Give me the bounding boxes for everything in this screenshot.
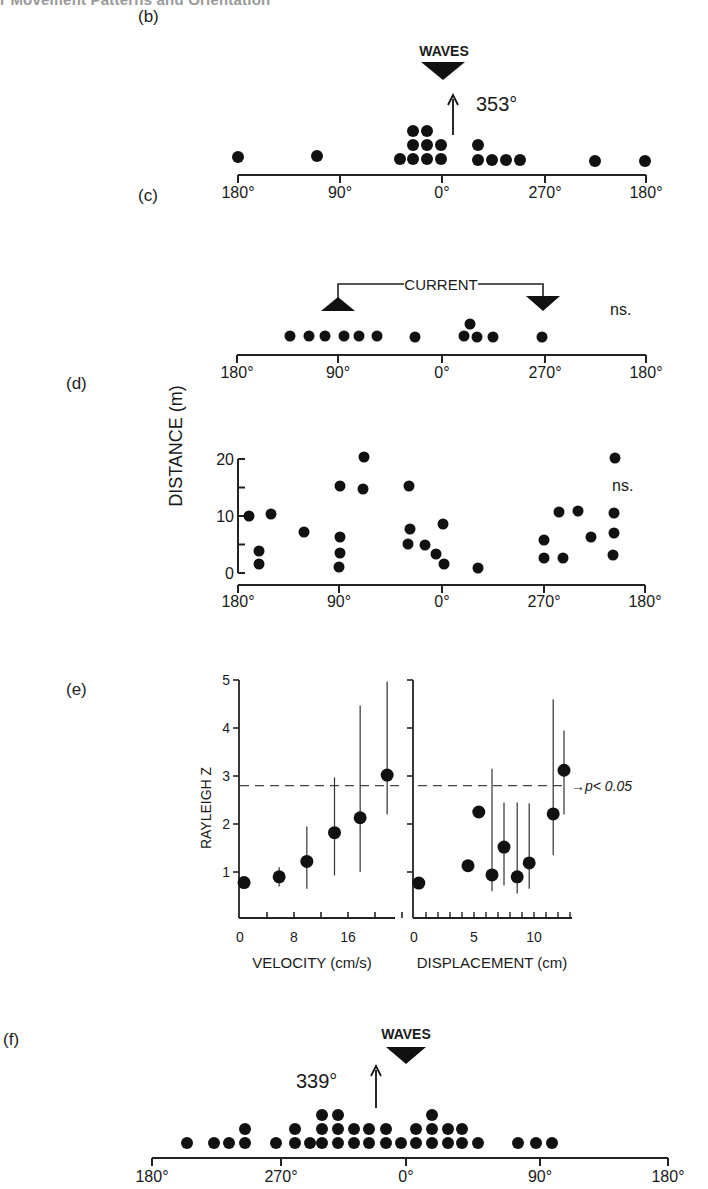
data-dot — [498, 841, 511, 854]
data-dot — [609, 528, 620, 539]
data-dot — [254, 559, 265, 570]
data-dot — [420, 540, 431, 551]
x-tick-label: 0 — [410, 929, 418, 945]
x-tick-label: 0° — [398, 1168, 413, 1185]
data-dot — [586, 532, 597, 543]
x-tick-label: 180° — [629, 364, 662, 381]
y-tick-label: 5 — [222, 672, 230, 688]
data-dot — [435, 153, 447, 165]
data-dot — [285, 331, 296, 342]
data-dot — [334, 562, 345, 573]
data-dot — [316, 1109, 328, 1121]
data-dot — [472, 1137, 484, 1149]
x-tick-label: 90° — [326, 364, 350, 381]
data-dot — [299, 527, 310, 538]
data-dot — [332, 1137, 344, 1149]
panel-b-chart: WAVES353°180°90°0°270°180° — [221, 43, 662, 201]
data-dot — [439, 559, 450, 570]
data-dot — [511, 870, 524, 883]
x-tick-label: 0° — [434, 593, 449, 610]
y-tick-label: 3 — [222, 768, 230, 784]
data-dot — [530, 1137, 542, 1149]
data-dot — [273, 870, 286, 883]
data-dot — [410, 1137, 422, 1149]
wave-direction-triangle-icon — [526, 296, 560, 311]
data-dot — [320, 331, 331, 342]
data-dot — [181, 1137, 193, 1149]
data-dot — [558, 553, 569, 564]
panel-d-chart: DISTANCE (m)01020ns.180°90°0°270°180° — [166, 385, 662, 610]
panel-f-chart: WAVES339°180°270°0°90°180° — [135, 1026, 684, 1185]
data-dot — [363, 1137, 375, 1149]
data-dot — [328, 826, 341, 839]
data-dot — [380, 1137, 392, 1149]
x-axis-label: VELOCITY (cm/s) — [252, 954, 372, 971]
current-bracket-right — [478, 284, 543, 296]
data-dot — [339, 331, 350, 342]
data-dot — [223, 1137, 235, 1149]
waves-label: WAVES — [381, 1026, 431, 1042]
data-dot — [266, 509, 277, 520]
data-dot — [426, 1109, 438, 1121]
x-tick-label: 180° — [221, 184, 254, 201]
panel-c-chart: CURRENTns.180°90°0°270°180° — [220, 276, 662, 381]
data-dot — [304, 331, 315, 342]
data-dot — [335, 548, 346, 559]
mean-direction-label: 339° — [296, 1070, 337, 1092]
data-dot — [512, 1137, 524, 1149]
data-dot — [403, 539, 414, 550]
data-dot — [412, 877, 425, 890]
data-dot — [573, 506, 584, 517]
data-dot — [610, 453, 621, 464]
data-dot — [435, 139, 447, 151]
x-tick-label: 0 — [236, 929, 244, 945]
data-dot — [244, 511, 255, 522]
data-dot — [238, 876, 251, 889]
current-label: CURRENT — [404, 276, 477, 293]
data-dot — [554, 507, 565, 518]
data-dot — [442, 1137, 454, 1149]
data-dot — [404, 481, 415, 492]
data-dot — [372, 331, 383, 342]
y-tick-label: 0 — [225, 565, 234, 582]
data-dot — [239, 1123, 251, 1135]
data-dot — [537, 332, 548, 343]
x-tick-label: 8 — [290, 929, 298, 945]
data-dot — [270, 1137, 282, 1149]
waves-label: WAVES — [419, 43, 469, 59]
data-dot — [421, 125, 433, 137]
y-axis-label: RAYLEIGH Z — [198, 766, 214, 849]
data-dot — [539, 553, 550, 564]
y-tick-label: 1 — [222, 864, 230, 880]
data-dot — [558, 764, 571, 777]
data-dot — [608, 550, 619, 561]
data-dot — [289, 1123, 301, 1135]
wave-direction-triangle-icon — [386, 1047, 426, 1064]
data-dot — [348, 1137, 360, 1149]
data-dot — [332, 1109, 344, 1121]
panel-e-displacement-chart: 0510DISPLACEMENT (cm)→p< 0.05 — [407, 680, 632, 971]
x-axis-label: DISPLACEMENT (cm) — [417, 954, 568, 971]
data-dot — [472, 332, 483, 343]
data-dot — [208, 1137, 220, 1149]
data-dot — [609, 508, 620, 519]
data-dot — [546, 1137, 558, 1149]
data-dot — [363, 1123, 375, 1135]
data-dot — [442, 1123, 454, 1135]
data-dot — [394, 153, 406, 165]
data-dot — [426, 1137, 438, 1149]
data-dot — [456, 1137, 468, 1149]
data-dot — [456, 1123, 468, 1135]
data-dot — [472, 139, 484, 151]
data-dot — [547, 807, 560, 820]
data-dot — [539, 535, 550, 546]
data-dot — [500, 154, 512, 166]
x-tick-label: 270° — [528, 184, 561, 201]
data-dot — [395, 1137, 407, 1149]
data-dot — [459, 331, 470, 342]
x-tick-label: 5 — [470, 929, 478, 945]
x-tick-label: 180° — [628, 593, 661, 610]
data-dot — [421, 153, 433, 165]
data-dot — [358, 484, 369, 495]
x-tick-label: 10 — [526, 929, 542, 945]
